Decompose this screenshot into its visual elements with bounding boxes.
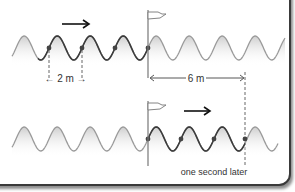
distance-label: 6 m [188, 73, 205, 84]
arrow-right-icon [62, 20, 89, 28]
caption-one-second-later: one second later [181, 167, 248, 177]
wavelength-label: ← 2 m → [44, 73, 86, 84]
arrow-right-icon [184, 107, 210, 115]
bottom-wave [12, 127, 278, 157]
wave-diagram: ← 2 m → 6 m one second later [0, 0, 295, 192]
